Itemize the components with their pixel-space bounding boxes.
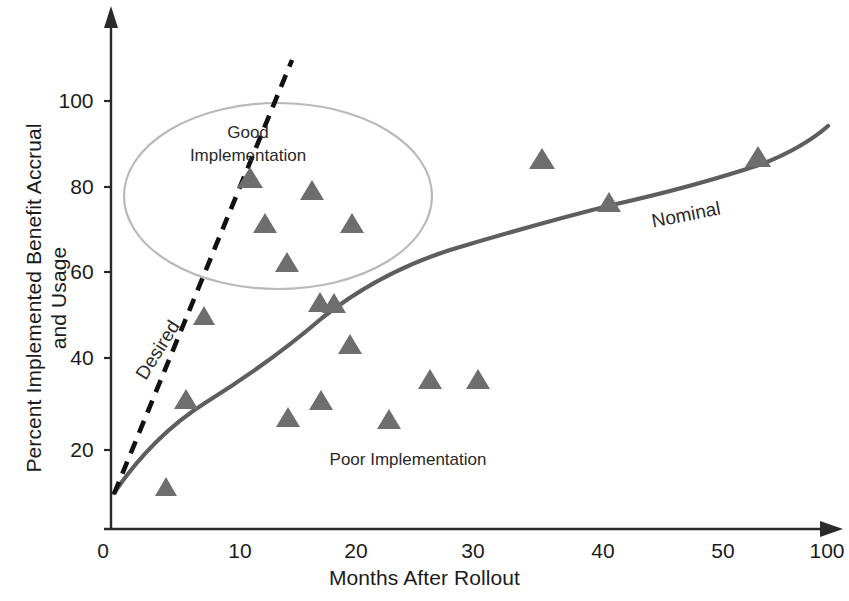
scatter-markers xyxy=(155,146,771,496)
good-implementation-line2: Implementation xyxy=(190,146,306,165)
data-point-triangle xyxy=(340,213,364,233)
data-point-triangle xyxy=(466,369,490,389)
y-tick-label: 80 xyxy=(70,175,93,199)
data-point-triangle xyxy=(275,252,299,272)
x-tick-label: 30 xyxy=(461,539,484,563)
x-tick-label: 100 xyxy=(809,539,844,563)
data-point-triangle xyxy=(155,477,177,496)
data-point-triangle xyxy=(193,306,215,325)
data-point-triangle xyxy=(276,407,300,427)
x-tick-label: 40 xyxy=(591,539,614,563)
data-point-triangle xyxy=(377,409,401,429)
y-tick-label: 20 xyxy=(70,438,93,462)
y-tick-label: 40 xyxy=(70,346,93,370)
x-axis-title: Months After Rollout xyxy=(0,566,849,590)
x-axis xyxy=(104,521,843,537)
data-point-triangle xyxy=(418,369,442,389)
data-point-triangle xyxy=(308,292,332,312)
data-point-triangle xyxy=(253,213,277,233)
data-point-triangle xyxy=(745,146,771,167)
x-tick-label: 20 xyxy=(344,539,367,563)
nominal-curve xyxy=(114,126,828,493)
data-point-triangle xyxy=(237,167,263,188)
data-point-triangle xyxy=(338,334,362,354)
data-point-triangle xyxy=(309,390,333,410)
chart-canvas xyxy=(0,0,849,601)
chart-figure: 100 80 60 40 20 0 10 20 30 40 50 100 Mon… xyxy=(0,0,849,601)
good-implementation-label: Good Implementation xyxy=(168,121,328,167)
y-tick-label: 60 xyxy=(70,260,93,284)
data-point-triangle xyxy=(174,389,198,409)
y-axis-title: Percent Implemented Benefit Accrual and … xyxy=(21,118,71,478)
x-tick-label: 0 xyxy=(97,539,109,563)
good-implementation-line1: Good xyxy=(227,123,269,142)
y-tick-label: 100 xyxy=(58,89,93,113)
x-tick-label: 50 xyxy=(711,539,734,563)
data-point-triangle xyxy=(529,148,555,169)
data-point-triangle xyxy=(300,180,324,200)
x-tick-label: 10 xyxy=(228,539,251,563)
poor-implementation-label: Poor Implementation xyxy=(330,450,487,470)
y-axis xyxy=(104,6,118,529)
